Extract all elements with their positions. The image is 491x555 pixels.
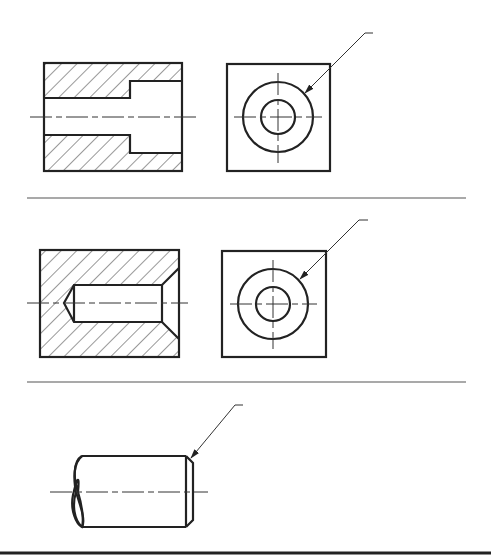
end-view-concentric-circles [222, 220, 368, 357]
leader-line [191, 405, 243, 458]
end-view-concentric-circles [227, 33, 373, 171]
panel-1 [30, 33, 373, 171]
technical-drawing [0, 0, 491, 555]
panel-3 [50, 405, 243, 527]
leader-line [300, 220, 368, 279]
shaft-with-chamfered-end [50, 405, 243, 527]
panel-2 [27, 220, 368, 357]
section-view-counterbored-hole [30, 63, 198, 171]
section-view-blind-hole-with-chamfer [27, 250, 188, 357]
